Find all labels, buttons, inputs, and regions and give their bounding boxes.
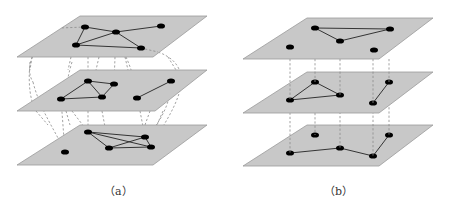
layer-b-top [243, 18, 433, 59]
layer-a-middle [17, 70, 207, 111]
layer-b-middle [243, 72, 433, 113]
multilayer-network-diagram [0, 0, 450, 209]
layer-b-bottom [243, 125, 433, 166]
layer-a-bottom [17, 125, 207, 165]
layer-a-top [17, 16, 207, 57]
caption-a: （a） [104, 182, 133, 198]
figure-a [17, 16, 207, 165]
caption-b: （b） [324, 182, 353, 198]
figure-b [243, 18, 433, 166]
